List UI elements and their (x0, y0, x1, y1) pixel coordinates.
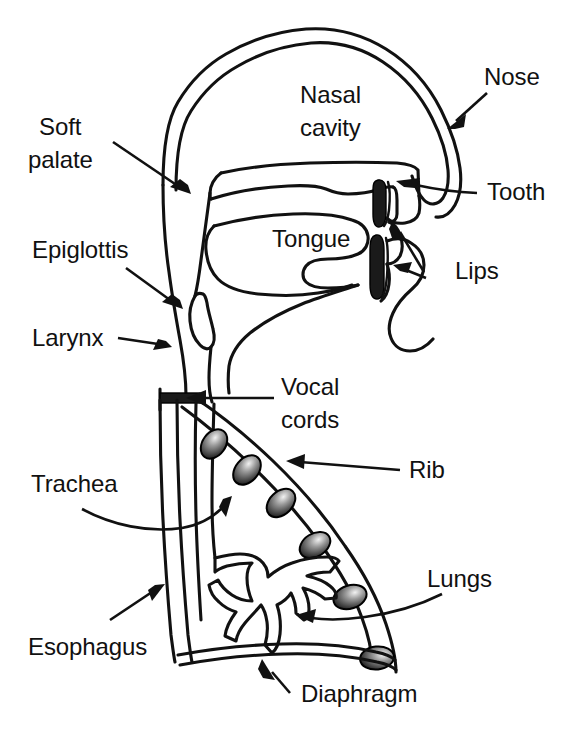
trachea-right-wall (212, 404, 215, 558)
labels-group: Nose Nasal cavity Soft palate Tooth Tong… (28, 63, 545, 707)
leader-rib (286, 454, 400, 470)
leader-lungs-arrow (296, 609, 316, 623)
leader-trachea-arrow (219, 496, 232, 517)
rib-2 (228, 450, 267, 490)
label-epiglottis: Epiglottis (32, 236, 128, 263)
leader-larynx (118, 338, 172, 350)
pharyngeal-back-wall (163, 185, 186, 396)
label-tooth: Tooth (487, 178, 545, 205)
leader-diaphragm (258, 659, 290, 693)
lower-tooth-shape (370, 235, 384, 299)
larynx-vestibule-front (209, 347, 212, 402)
upper-tooth-shape (373, 180, 386, 227)
respiratory-system-diagram: Nose Nasal cavity Soft palate Tooth Tong… (0, 0, 574, 735)
leader-esophagus (110, 584, 165, 620)
leader-trachea (82, 496, 232, 529)
lower-jaw-lips-group (370, 222, 433, 351)
pharynx-front-wall (195, 193, 210, 296)
rib-1 (195, 424, 232, 463)
label-lungs: Lungs (427, 565, 492, 592)
label-tongue: Tongue (272, 225, 350, 252)
label-soft-palate-line2: palate (28, 146, 93, 173)
bronchial-tree-outline (209, 554, 339, 653)
label-trachea: Trachea (31, 470, 118, 497)
leader-esophagus-line (110, 592, 152, 620)
trachea-left-wall (195, 403, 201, 620)
leader-tooth (396, 178, 477, 193)
leader-epiglottis (126, 268, 183, 309)
label-esophagus: Esophagus (28, 633, 147, 660)
upper-jaw-right-edge (387, 196, 420, 223)
esophagus-right-wall (177, 400, 192, 662)
leader-larynx-arrow (153, 339, 172, 350)
hard-palate-lower-line (211, 186, 393, 199)
rib-3 (261, 483, 301, 522)
label-nasal-cavity-line2: cavity (300, 114, 361, 141)
label-diaphragm: Diaphragm (301, 680, 418, 707)
label-soft-palate-line1: Soft (39, 113, 82, 140)
diagram-page: Nose Nasal cavity Soft palate Tooth Tong… (0, 0, 574, 735)
label-rib: Rib (409, 456, 445, 483)
leader-lungs (296, 594, 442, 623)
esophagus-left-wall (160, 400, 175, 662)
leader-lips (389, 220, 426, 278)
leader-rib-line (300, 462, 400, 470)
epiglottis-shape (190, 293, 214, 348)
label-nose: Nose (484, 63, 540, 90)
leader-nose-line (456, 93, 487, 121)
leader-diaphragm-line (272, 672, 290, 693)
label-lips: Lips (455, 257, 499, 284)
leader-epiglottis-line (126, 268, 170, 300)
label-vocal-cords-line2: cords (281, 406, 339, 433)
label-vocal-cords-line1: Vocal (281, 373, 339, 400)
leader-rib-arrow (286, 454, 305, 469)
leader-nose (447, 93, 487, 129)
leader-larynx-line (118, 338, 158, 344)
leader-soft-palate-line (113, 142, 178, 186)
label-nasal-cavity-line1: Nasal (300, 81, 361, 108)
leader-esophagus-arrow (148, 584, 165, 601)
leader-diaphragm-arrow (258, 659, 275, 680)
leader-trachea-line (82, 508, 222, 529)
label-larynx: Larynx (32, 324, 104, 351)
lips-outer-profile (387, 239, 433, 351)
bronchial-tree-group (209, 554, 339, 653)
